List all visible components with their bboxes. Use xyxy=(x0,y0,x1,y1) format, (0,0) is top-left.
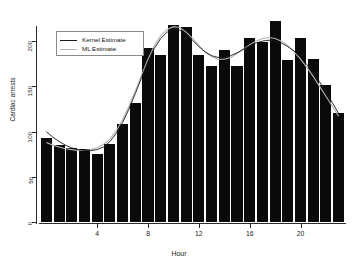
legend-label-kernel-estimate: Kernel Estimate xyxy=(82,36,126,43)
x-tick-label-20: 20 xyxy=(291,230,311,237)
y-tick-label-100: 100 xyxy=(27,131,34,142)
y-tick-label-150: 150 xyxy=(27,86,34,97)
legend-label-ml-estimate: ML Estimate xyxy=(82,45,116,52)
x-tick-label-4: 4 xyxy=(87,230,107,237)
x-tick-4 xyxy=(97,224,98,228)
x-tick-8 xyxy=(148,224,149,228)
legend-swatch-kernel-estimate xyxy=(60,40,77,41)
y-axis-title: Cardiac arrests xyxy=(7,96,17,103)
y-tick-label-0: 0 xyxy=(27,222,34,226)
x-tick-16 xyxy=(250,224,251,228)
x-tick-label-16: 16 xyxy=(240,230,260,237)
x-tick-label-12: 12 xyxy=(189,230,209,237)
x-tick-label-8: 8 xyxy=(138,230,158,237)
x-tick-12 xyxy=(199,224,200,228)
cardiac-arrests-chart: 050100150200 48121620 Kernel Estimate ML… xyxy=(0,0,358,270)
y-tick-label-50: 50 xyxy=(27,176,34,183)
chart-legend: Kernel Estimate ML Estimate xyxy=(56,31,144,56)
y-tick-label-200: 200 xyxy=(27,41,34,52)
x-axis-title: Hour xyxy=(0,250,358,257)
x-tick-20 xyxy=(301,224,302,228)
y-axis-title-text: Cardiac arrests xyxy=(9,60,16,140)
legend-swatch-ml-estimate xyxy=(60,49,77,50)
y-axis-line xyxy=(36,26,37,224)
